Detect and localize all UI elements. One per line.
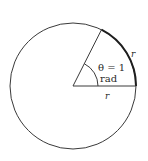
slanted-radius	[73, 30, 102, 86]
radius-label: r	[105, 91, 110, 101]
angle-arc-marker	[84, 64, 98, 86]
arc-length-label: r	[131, 49, 136, 59]
radian-diagram: θ = 1 rad r r	[0, 0, 148, 161]
angle-label-theta: θ = 1	[98, 62, 125, 73]
angle-label-rad: rad	[100, 73, 118, 84]
